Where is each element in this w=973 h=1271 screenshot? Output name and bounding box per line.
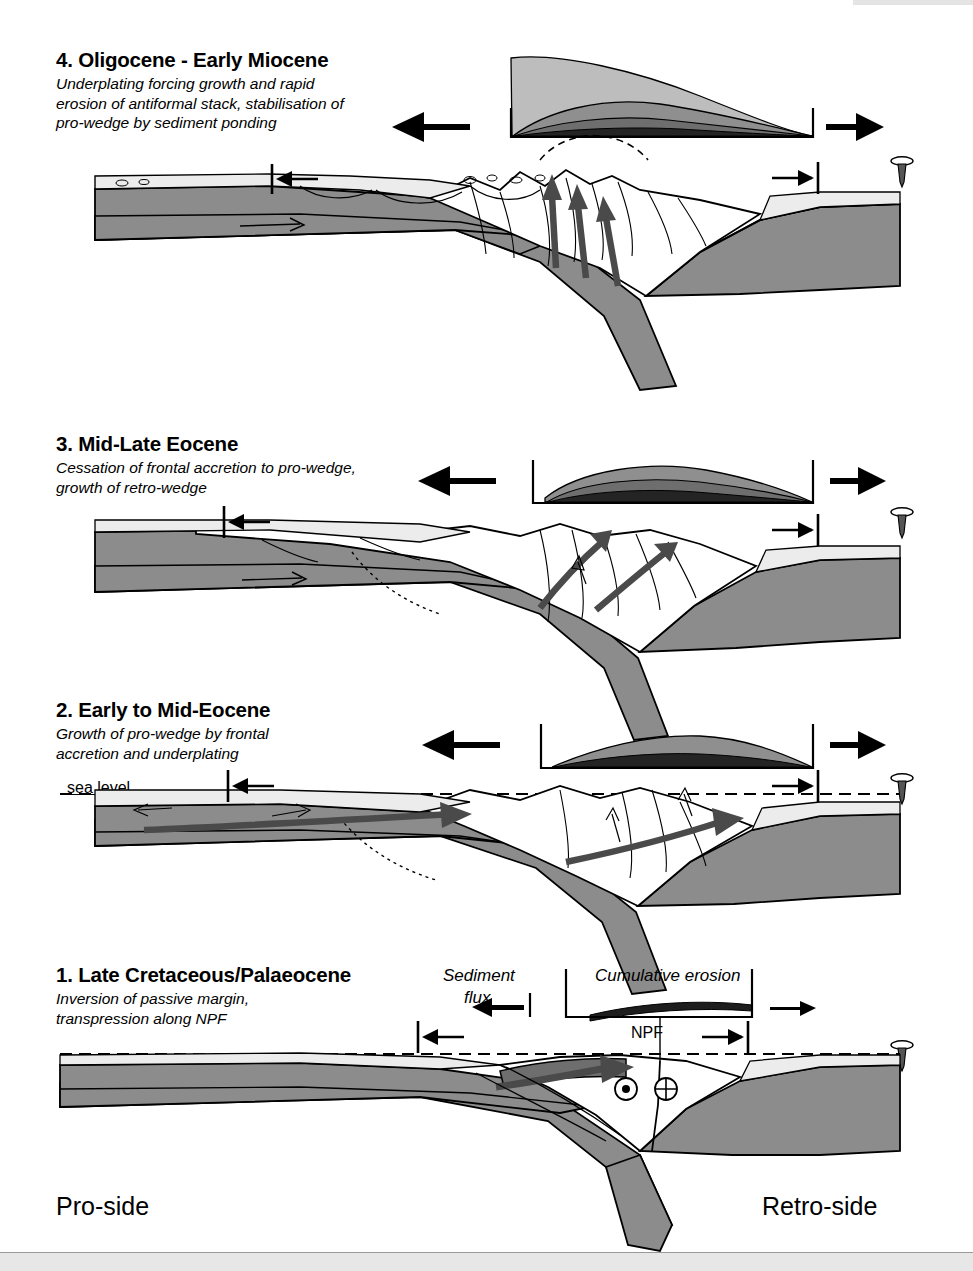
pin-marker-panel-4 [891, 157, 913, 187]
right-convergence-tick-panel-1 [702, 1021, 748, 1053]
panel-1-cross-section [60, 1017, 900, 1251]
right-convergence-tick-panel-2 [772, 770, 818, 802]
pin-marker-panel-2 [891, 774, 913, 804]
inset-arrow-right [826, 113, 884, 141]
left-convergence-tick-panel-1 [418, 1021, 464, 1053]
sediment-flux-arrow-left [472, 998, 524, 1017]
panel-3-graphic [0, 420, 973, 720]
inset-arrow-right [830, 731, 886, 759]
panel-4-erosion-inset [392, 57, 884, 160]
panel-1-graphic [0, 955, 973, 1271]
panel-4-graphic [0, 0, 973, 420]
sediment-flux-arrow-right [770, 1001, 816, 1016]
motion-toward-viewer-icon [615, 1078, 637, 1100]
panel-2-erosion-inset [422, 724, 886, 768]
page-bottom-band [0, 1253, 973, 1271]
motion-away-viewer-icon [655, 1078, 677, 1100]
right-convergence-tick-panel-3 [772, 514, 818, 546]
erosion-layer-1 [590, 1002, 752, 1021]
inset-arrow-left [422, 730, 500, 760]
panel-1-erosion-inset [472, 969, 816, 1021]
right-convergence-tick-panel-4 [772, 162, 818, 194]
panel-4-cross-section [95, 162, 900, 390]
dashed-dome [540, 136, 648, 160]
pin-marker-panel-3 [891, 508, 913, 538]
slab-tail [606, 1155, 672, 1251]
panel-3-erosion-inset [418, 460, 886, 503]
inset-arrow-right [830, 467, 886, 495]
inset-arrow-left [392, 112, 470, 142]
inset-arrow-left [418, 466, 496, 496]
panel-2-graphic [0, 690, 973, 990]
